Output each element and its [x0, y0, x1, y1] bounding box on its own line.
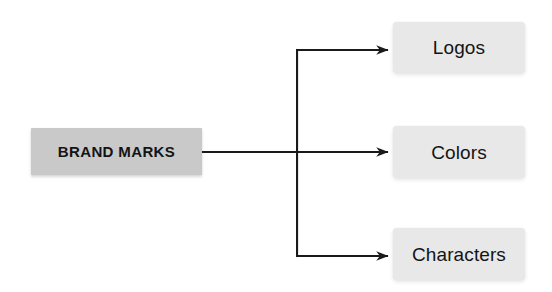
diagram-canvas: BRAND MARKS Logos Colors Characters	[0, 0, 552, 292]
node-colors[interactable]: Colors	[393, 126, 525, 178]
node-logos-label: Logos	[433, 38, 485, 57]
node-colors-label: Colors	[431, 143, 487, 162]
node-logos[interactable]: Logos	[393, 22, 525, 73]
node-brand-marks[interactable]: BRAND MARKS	[31, 128, 202, 175]
node-brand-marks-label: BRAND MARKS	[58, 144, 175, 160]
node-characters-label: Characters	[412, 245, 506, 264]
node-characters[interactable]: Characters	[393, 228, 525, 280]
